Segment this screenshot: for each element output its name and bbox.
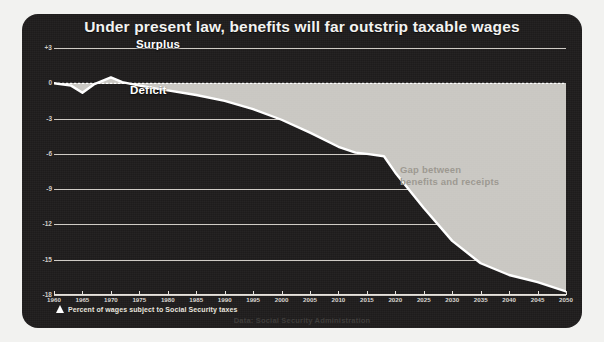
x-axis-tick xyxy=(196,291,197,295)
y-axis-tick-label: -9 xyxy=(34,186,52,193)
x-axis-tick-label: 1980 xyxy=(161,297,175,303)
x-axis-tick xyxy=(168,291,169,295)
x-axis-tick xyxy=(282,291,283,295)
x-axis-tick xyxy=(338,291,339,295)
x-axis-tick-label: 2010 xyxy=(332,297,346,303)
y-axis-tick-label: -3 xyxy=(34,116,52,123)
x-axis-tick xyxy=(481,291,482,295)
gap-annotation-line1: Gap between xyxy=(400,164,530,176)
x-axis-tick xyxy=(82,291,83,295)
x-axis-tick xyxy=(538,291,539,295)
x-axis-tick-label: 2005 xyxy=(303,297,317,303)
gap-annotation: Gap between benefits and receipts xyxy=(400,164,530,188)
x-axis-tick xyxy=(54,291,55,295)
x-axis-tick xyxy=(566,291,567,295)
x-axis-tick xyxy=(509,291,510,295)
source-credit: Data: Social Security Administration xyxy=(0,316,604,325)
x-axis-tick-label: 1960 xyxy=(47,297,61,303)
up-triangle-icon xyxy=(56,305,64,313)
x-axis-tick-label: 1985 xyxy=(189,297,203,303)
x-axis-tick xyxy=(424,291,425,295)
x-axis-tick-label: 2020 xyxy=(388,297,402,303)
y-axis-tick-label: 0 xyxy=(34,80,52,87)
y-axis-tick-label: -12 xyxy=(34,221,52,228)
x-axis-tick-label: 2030 xyxy=(445,297,459,303)
x-axis-tick-label: 2025 xyxy=(417,297,431,303)
x-axis-tick xyxy=(253,291,254,295)
x-axis-tick-label: 2040 xyxy=(502,297,516,303)
x-axis-tick-label: 2045 xyxy=(531,297,545,303)
x-axis-tick xyxy=(310,291,311,295)
x-axis-tick-label: 2035 xyxy=(474,297,488,303)
chart-page: Under present law, benefits will far out… xyxy=(0,0,604,342)
footnote: Percent of wages subject to Social Secur… xyxy=(56,305,237,313)
x-axis-tick-label: 1995 xyxy=(246,297,260,303)
x-axis-tick-label: 1990 xyxy=(218,297,232,303)
x-axis-tick-label: 2050 xyxy=(559,297,573,303)
x-axis-tick-label: 1975 xyxy=(132,297,146,303)
y-axis-tick-label: -15 xyxy=(34,257,52,264)
x-axis-tick-label: 2000 xyxy=(275,297,289,303)
x-axis-tick xyxy=(395,291,396,295)
y-axis-tick-label: -6 xyxy=(34,151,52,158)
x-axis-tick-label: 1970 xyxy=(104,297,118,303)
chart-title: Under present law, benefits will far out… xyxy=(22,18,582,36)
y-axis-tick-label: +3 xyxy=(34,45,52,52)
footnote-text: Percent of wages subject to Social Secur… xyxy=(68,306,237,313)
x-axis-tick xyxy=(139,291,140,295)
x-axis-tick xyxy=(225,291,226,295)
x-axis-tick xyxy=(111,291,112,295)
x-axis-tick xyxy=(452,291,453,295)
gap-annotation-line2: benefits and receipts xyxy=(400,176,530,188)
x-axis-tick-label: 1965 xyxy=(76,297,90,303)
chart-panel: Under present law, benefits will far out… xyxy=(22,14,582,328)
x-axis-tick-label: 2015 xyxy=(360,297,374,303)
surplus-label: Surplus xyxy=(136,38,180,50)
x-axis-tick xyxy=(367,291,368,295)
deficit-label: Deficit xyxy=(130,84,167,96)
